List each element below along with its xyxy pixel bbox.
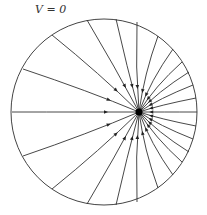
field-line — [139, 112, 173, 175]
field-line — [23, 69, 139, 112]
field-line — [52, 112, 139, 189]
field-line — [139, 98, 196, 112]
field-line — [87, 20, 139, 112]
diagram: V = 0 — [0, 0, 207, 215]
field-line — [87, 112, 139, 204]
field-line — [139, 112, 193, 139]
field-line-figure — [0, 0, 207, 215]
field-line — [52, 35, 139, 112]
arrow-icon — [141, 131, 145, 135]
arrow-icon — [141, 89, 145, 93]
arrow-icon — [104, 110, 108, 114]
field-line — [139, 36, 158, 112]
field-line — [139, 72, 189, 112]
point-charge — [136, 109, 143, 116]
arrow-icon — [106, 97, 110, 100]
field-line — [139, 85, 193, 112]
field-line — [116, 19, 139, 112]
field-line — [139, 112, 158, 188]
arrow-icon — [135, 85, 139, 89]
field-line — [139, 49, 173, 112]
field-line — [136, 112, 139, 202]
field-line — [139, 112, 196, 126]
field-line — [116, 112, 139, 205]
field-line — [139, 112, 189, 152]
arrow-icon — [135, 135, 139, 139]
field-line — [23, 112, 139, 156]
field-line — [139, 112, 182, 162]
field-line — [136, 22, 139, 112]
arrow-icon — [149, 110, 153, 114]
field-line — [139, 62, 182, 112]
potential-label: V = 0 — [35, 3, 66, 16]
